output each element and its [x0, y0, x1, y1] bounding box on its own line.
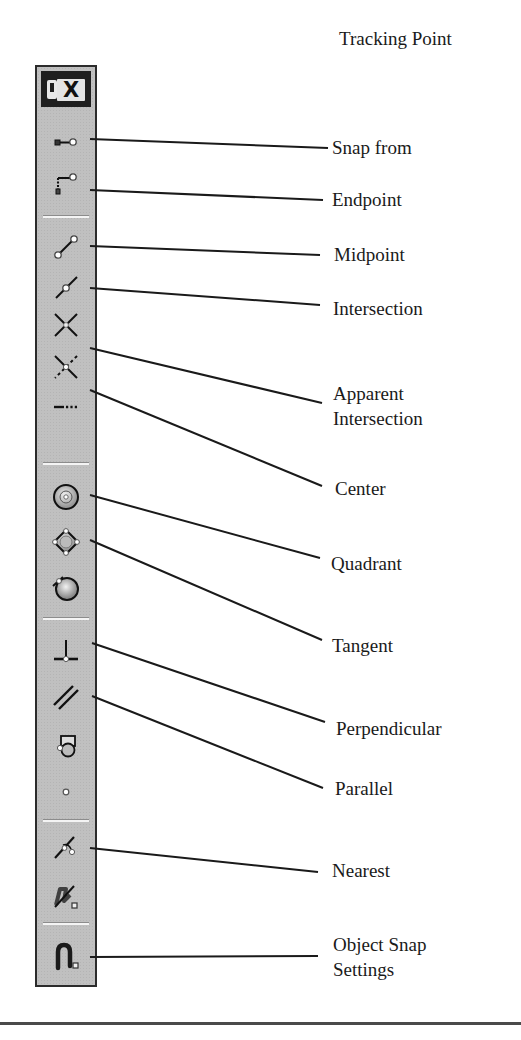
leader-parallel [92, 696, 323, 788]
label-parallel: Parallel [335, 776, 393, 801]
snap-none-icon [50, 881, 82, 913]
label-snap-from: Snap from [332, 135, 412, 160]
label-endpoint: Endpoint [332, 187, 402, 212]
label-nearest: Nearest [332, 858, 390, 883]
center-icon [50, 481, 82, 513]
label-midpoint: Midpoint [334, 242, 405, 267]
bottom-divider [0, 1022, 521, 1025]
tool-apparent-intersection[interactable] [46, 349, 86, 385]
tool-nearest[interactable] [46, 829, 86, 865]
tool-center[interactable] [46, 479, 86, 515]
tool-tangent[interactable] [46, 569, 86, 605]
snap-from-icon [50, 126, 82, 158]
tool-quadrant[interactable] [46, 524, 86, 560]
leader-osnap-settings [90, 956, 318, 957]
toolbar-separator [43, 617, 89, 620]
node-icon [50, 776, 82, 808]
toolbar-separator [43, 215, 89, 218]
tool-osnap-settings[interactable] [46, 938, 86, 974]
tool-midpoint[interactable] [46, 229, 86, 265]
extension-icon [50, 391, 82, 423]
leader-snap-from [90, 139, 328, 148]
tool-parallel[interactable] [46, 679, 86, 715]
label-apparent-line1: Apparent [333, 381, 404, 406]
tangent-icon [50, 571, 82, 603]
object-snap-toolbar: X [35, 65, 97, 987]
tool-extension[interactable] [46, 389, 86, 425]
osnap-settings-icon [50, 940, 82, 972]
leader-apparent-intersection [90, 348, 322, 403]
leader-perpendicular [92, 643, 325, 722]
label-apparent-line2: Intersection [333, 406, 423, 431]
insertion-icon [50, 731, 82, 763]
toolbar-separator [43, 922, 89, 925]
tool-snap-from[interactable] [46, 124, 86, 160]
tool-x-intersection[interactable] [46, 307, 86, 343]
tool-endpoint[interactable] [46, 166, 86, 202]
leader-intersection [90, 288, 320, 305]
leader-midpoint [90, 246, 320, 255]
tool-insertion[interactable] [46, 729, 86, 765]
leader-tangent [90, 540, 322, 640]
perpendicular-icon [50, 636, 82, 668]
label-osnap-settings-line1: Object Snap [333, 932, 426, 957]
leader-center [90, 390, 322, 486]
toolbar-separator [43, 819, 89, 822]
label-tangent: Tangent [332, 633, 393, 658]
tool-perpendicular[interactable] [46, 634, 86, 670]
intersection-icon [50, 271, 82, 303]
label-center: Center [335, 476, 386, 501]
label-quadrant: Quadrant [331, 551, 402, 576]
close-button[interactable]: X [57, 79, 85, 101]
tool-intersection[interactable] [46, 269, 86, 305]
quadrant-icon [50, 526, 82, 558]
apparent-intersection-icon [50, 351, 82, 383]
label-osnap-settings-line2: Settings [333, 957, 394, 982]
tracking-point-label: Tracking Point [339, 28, 452, 50]
leader-endpoint [90, 190, 323, 200]
leader-quadrant [90, 495, 320, 558]
parallel-icon [50, 681, 82, 713]
tool-node[interactable] [46, 774, 86, 810]
tool-snap-none[interactable] [46, 879, 86, 915]
leader-nearest [90, 848, 318, 872]
toolbar-separator [43, 462, 89, 465]
x-intersection-icon [50, 309, 82, 341]
nearest-icon [50, 831, 82, 863]
label-perpendicular: Perpendicular [336, 716, 442, 741]
toolbar-titlebar[interactable]: X [41, 71, 91, 107]
grip-icon[interactable] [47, 80, 57, 99]
midpoint-icon [50, 231, 82, 263]
endpoint-icon [50, 168, 82, 200]
label-intersection: Intersection [333, 296, 423, 321]
